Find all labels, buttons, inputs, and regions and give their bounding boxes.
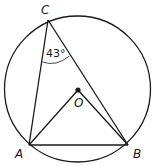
segment-ob <box>78 90 128 145</box>
segment-cb <box>48 20 128 145</box>
circle-diagram: C A B O 43° <box>0 0 153 166</box>
label-a: A <box>14 147 23 161</box>
label-o: O <box>74 96 83 110</box>
angle-label-c: 43° <box>46 47 66 60</box>
label-b: B <box>133 147 141 161</box>
center-point-o <box>75 87 80 92</box>
label-c: C <box>41 3 50 17</box>
